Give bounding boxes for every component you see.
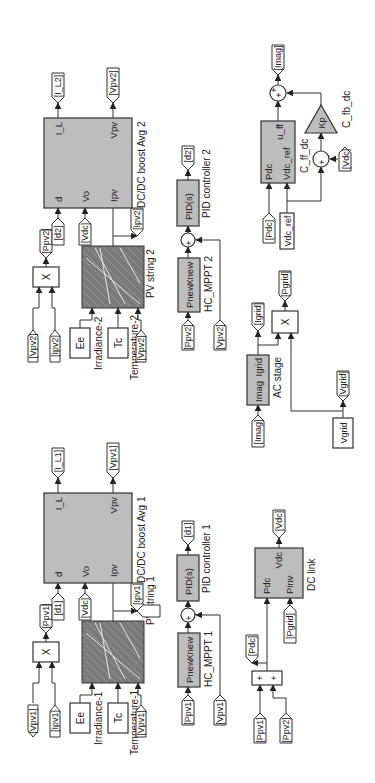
svg-text:Irradiance-1: Irradiance-1 xyxy=(93,691,104,745)
svg-text:[I_L2]: [I_L2] xyxy=(53,75,63,98)
svg-text:Vpv: Vpv xyxy=(108,122,119,139)
tag-ipv2-out[interactable]: [Ipv2] xyxy=(131,208,143,236)
svg-text:DC/DC boost Avg 2: DC/DC boost Avg 2 xyxy=(136,121,147,208)
vgrid-source[interactable]: Vgrid xyxy=(333,418,353,448)
svg-text:[d1]: [d1] xyxy=(53,600,63,615)
svg-text:I_L: I_L xyxy=(53,122,64,135)
svg-text:Vdc: Vdc xyxy=(273,552,284,569)
svg-text:Ipv: Ipv xyxy=(108,564,119,577)
pv-chain-2: X [Vpv2] [Ipv2] [Ppv2] PV string 2 Ee Ir… xyxy=(28,68,226,380)
svg-text:u_ff: u_ff xyxy=(274,124,285,140)
pv-string-1[interactable]: PV string 1 xyxy=(82,576,156,683)
tag-vpv2-out[interactable]: [Vpv2] xyxy=(107,68,119,103)
svg-text:[Vpv2]: [Vpv2] xyxy=(108,70,118,96)
tag-igrid[interactable]: [Igrid] xyxy=(252,303,264,331)
svg-text:[d1]: [d1] xyxy=(183,522,193,537)
svg-text:[Igrid]: [Igrid] xyxy=(253,303,263,326)
svg-text:PV string 1: PV string 1 xyxy=(145,576,156,625)
tag-il1-out[interactable]: [I_L1] xyxy=(52,448,64,478)
tag-ppv1-mppt-in[interactable]: [Ppv1] xyxy=(182,695,194,725)
ac-stage-block[interactable]: Imag Igrid AC stage xyxy=(247,355,283,405)
svg-text:Pinv: Pinv xyxy=(284,575,295,594)
dc-link-block[interactable]: Pdc Pinv Vdc DC link xyxy=(255,548,317,598)
tag-d1-in[interactable]: [d1] xyxy=(52,593,64,620)
svg-text:[Ppv2]: [Ppv2] xyxy=(41,228,51,254)
svg-text:C_fb_dc: C_fb_dc xyxy=(341,91,352,128)
tag-d1-out[interactable]: [d1] xyxy=(182,521,194,545)
dc-controller-section: [Pdc] Vdc_ref Pdc Vdc_ref u_ff C_ff_dc +… xyxy=(261,45,352,249)
svg-text:d: d xyxy=(53,197,64,202)
tag-vdc-in-1[interactable]: [Vdc] xyxy=(79,593,91,620)
tag-vpv2-sum[interactable]: [Vpv2] xyxy=(214,320,226,350)
hc-mppt-2[interactable]: Pnew Xnew HC_MPPT 2 xyxy=(178,256,214,312)
svg-text:[Vpv1]: [Vpv1] xyxy=(136,710,146,736)
tag-vpv1-out[interactable]: [Vpv1] xyxy=(107,443,119,478)
dcdc-boost-avg-2[interactable]: d Vo Ipv I_L Vpv DC/DC boost Avg 2 xyxy=(44,118,147,208)
svg-text:Ipv: Ipv xyxy=(108,189,119,202)
pv-string-2[interactable]: PV string 2 xyxy=(82,246,156,308)
tag-pdc[interactable]: [Pdc] xyxy=(246,635,258,663)
c-ff-dc-block[interactable]: Pdc Vdc_ref u_ff C_ff_dc xyxy=(261,121,310,183)
svg-text:PID(s): PID(s) xyxy=(183,193,194,220)
tag-ppv2-mppt-in[interactable]: [Ppv2] xyxy=(182,320,194,350)
tag-vpv1-string[interactable]: [Vpv1] xyxy=(136,705,146,737)
tag-vpv2-in[interactable]: [Vpv2] xyxy=(28,330,38,362)
sum-out[interactable]: + + xyxy=(269,85,286,101)
product-block-1[interactable]: X xyxy=(33,642,59,662)
svg-text:Pnew: Pnew xyxy=(184,659,195,683)
tag-vdc-in-2[interactable]: [Vdc] xyxy=(79,218,91,245)
irradiance-2-source[interactable]: Ee Irradiance-2 xyxy=(70,316,104,370)
svg-text:Igrid: Igrid xyxy=(253,358,264,376)
tag-ipv2-in[interactable]: [Ipv2] xyxy=(50,330,60,362)
svg-text:PID controller 2: PID controller 2 xyxy=(201,149,212,218)
tag-pdc-in[interactable]: [Pdc] xyxy=(263,213,275,243)
sum-block-dc[interactable]: + + xyxy=(252,671,282,685)
tag-vdc-fb-in[interactable]: [Vdc] xyxy=(339,147,351,171)
svg-text:[Ipv1]: [Ipv1] xyxy=(132,583,142,605)
tag-vpv1-sum[interactable]: [Vpv1] xyxy=(214,695,226,725)
svg-text:[Vpv1]: [Vpv1] xyxy=(28,708,38,734)
tag-pgrid-pinv-in[interactable]: [Pgrid] xyxy=(284,605,296,643)
svg-text:+: + xyxy=(317,159,327,164)
tag-vpv2-string[interactable]: [Vpv2] xyxy=(136,330,146,362)
svg-text:[Ipv2]: [Ipv2] xyxy=(50,335,60,357)
svg-text:I_L: I_L xyxy=(53,497,64,510)
svg-text:[Vdc]: [Vdc] xyxy=(274,511,284,532)
svg-text:[Imag]: [Imag] xyxy=(273,45,283,70)
svg-text:Vpv: Vpv xyxy=(108,497,119,514)
tag-il2-out[interactable]: [I_L2] xyxy=(52,73,64,103)
tag-vpv1-in[interactable]: [Vpv1] xyxy=(28,705,38,737)
tag-ppv1-out[interactable]: [Ppv1] xyxy=(40,603,52,633)
tag-imag-out[interactable]: [Imag] xyxy=(272,45,284,75)
svg-text:[Vpv2]: [Vpv2] xyxy=(28,333,38,359)
vdc-ref-source[interactable]: Vdc_ref xyxy=(280,213,294,249)
irradiance-1-source[interactable]: Ee Irradiance-1 xyxy=(70,691,104,745)
svg-text:[Vpv1]: [Vpv1] xyxy=(108,445,118,471)
tag-pgrid-out[interactable]: [Pgrid] xyxy=(279,271,291,301)
svg-text:[Vpv2]: [Vpv2] xyxy=(215,324,225,350)
tag-vdc-out[interactable]: [Vdc] xyxy=(273,510,285,538)
svg-text:[Ppv1]: [Ppv1] xyxy=(41,603,51,629)
svg-text:[Vpv2]: [Vpv2] xyxy=(136,335,146,361)
tag-d2-in[interactable]: [d2] xyxy=(52,218,64,245)
dcdc-boost-avg-1[interactable]: d Vo Ipv I_L Vpv DC/DC boost Avg 1 xyxy=(44,493,147,583)
svg-text:[Pdc]: [Pdc] xyxy=(247,636,257,657)
tag-ppv2-sum-in[interactable]: [Ppv2] xyxy=(280,713,292,743)
svg-text:[d2]: [d2] xyxy=(53,225,63,240)
svg-text:Vdc_ref: Vdc_ref xyxy=(283,215,293,247)
tag-ppv1-sum-in[interactable]: [Ppv1] xyxy=(254,713,266,743)
tag-imag-in[interactable]: [Imag] xyxy=(252,415,264,447)
product-block-2[interactable]: X xyxy=(33,267,59,287)
tag-d2-out[interactable]: [d2] xyxy=(182,146,194,170)
tag-vgrid[interactable]: [Vgrid] xyxy=(337,371,349,401)
svg-text:[Pgrid]: [Pgrid] xyxy=(285,613,295,639)
svg-text:Xnew: Xnew xyxy=(184,637,195,661)
dc-link-section: [Ppv1] [Ppv2] + + [Pdc] [Pgrid] Pdc Pinv… xyxy=(246,510,317,743)
tag-ipv1-in[interactable]: [Ipv1] xyxy=(50,705,60,737)
tag-ppv2-out[interactable]: [Ppv2] xyxy=(40,228,52,258)
svg-text:+: + xyxy=(269,675,279,680)
gain-kp[interactable]: Kp C_fb_dc xyxy=(305,91,352,133)
product-block-grid[interactable]: X xyxy=(272,311,298,333)
tag-ipv1-out-label[interactable]: [Ipv1] xyxy=(131,583,143,611)
hc-mppt-1[interactable]: Pnew Xnew HC_MPPT 1 xyxy=(178,631,214,687)
